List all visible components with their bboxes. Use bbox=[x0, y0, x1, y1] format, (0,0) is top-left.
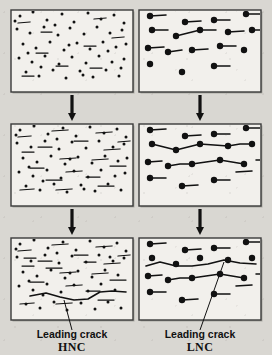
nucleation-site bbox=[28, 280, 31, 283]
nucleation-site bbox=[120, 307, 123, 310]
nucleation-site bbox=[80, 184, 83, 187]
nucleation-site bbox=[64, 163, 67, 166]
nucleation-site bbox=[121, 29, 124, 32]
nucleation-site bbox=[39, 189, 42, 192]
nucleation-site bbox=[114, 289, 117, 292]
panel-hnc-stage-2 bbox=[11, 124, 135, 208]
nucleation-site bbox=[109, 256, 112, 259]
nucleation-site bbox=[52, 69, 55, 72]
nucleation-site bbox=[249, 141, 255, 147]
panel-lnc-stage-3 bbox=[139, 238, 264, 322]
nucleation-site bbox=[83, 188, 86, 191]
nucleation-site bbox=[115, 46, 118, 49]
nucleation-site bbox=[120, 189, 123, 192]
nucleation-site bbox=[22, 43, 25, 46]
nucleation-site bbox=[98, 55, 101, 58]
nucleation-site bbox=[32, 175, 35, 178]
nucleation-site bbox=[112, 260, 115, 263]
nucleation-site bbox=[123, 22, 126, 25]
nucleation-site bbox=[43, 26, 46, 29]
panel-hnc-stage-1 bbox=[11, 10, 135, 94]
nucleation-site bbox=[96, 26, 99, 29]
nucleation-site bbox=[189, 161, 195, 167]
nucleation-site bbox=[66, 191, 69, 194]
nucleation-site bbox=[211, 17, 217, 23]
nucleation-site bbox=[63, 49, 66, 52]
nucleation-site bbox=[107, 50, 110, 53]
nucleation-site bbox=[116, 242, 119, 245]
nucleation-site bbox=[241, 275, 247, 281]
nucleation-site bbox=[53, 301, 56, 304]
nucleation-site bbox=[89, 48, 92, 51]
nucleation-site bbox=[179, 297, 185, 303]
nucleation-site bbox=[94, 308, 97, 311]
nucleation-site bbox=[165, 49, 171, 55]
lnc-code-label: LNC bbox=[187, 340, 214, 354]
nucleation-site bbox=[165, 163, 171, 169]
nucleation-site bbox=[38, 75, 41, 78]
crack-evolution-figure: Leading crack HNC Leading crack LNC bbox=[0, 0, 272, 355]
nucleation-site bbox=[83, 33, 86, 36]
nucleation-site bbox=[125, 250, 128, 253]
nucleation-site bbox=[25, 71, 28, 74]
nucleation-site bbox=[57, 34, 60, 37]
nucleation-site bbox=[56, 138, 59, 141]
nucleation-site bbox=[120, 67, 123, 70]
nucleation-site bbox=[149, 255, 155, 261]
nucleation-site bbox=[197, 141, 203, 147]
nucleation-site bbox=[100, 169, 103, 172]
nucleation-site bbox=[75, 249, 78, 252]
nucleation-site bbox=[103, 132, 106, 135]
nucleation-site bbox=[149, 141, 155, 147]
nucleation-site bbox=[125, 136, 128, 139]
nucleation-site bbox=[82, 74, 85, 77]
panel-lnc-stage-2 bbox=[139, 124, 264, 208]
nucleation-site bbox=[75, 135, 78, 138]
nucleation-site bbox=[98, 140, 101, 143]
nucleation-site bbox=[18, 285, 21, 288]
nucleation-site bbox=[69, 158, 72, 161]
nucleation-site bbox=[91, 162, 94, 165]
nucleation-site bbox=[126, 157, 129, 160]
panel-lnc-stage-1 bbox=[139, 10, 263, 94]
nucleation-site bbox=[44, 55, 47, 58]
nucleation-site bbox=[73, 284, 76, 287]
nucleation-site bbox=[19, 15, 22, 18]
nucleation-site bbox=[79, 70, 82, 73]
nucleation-site bbox=[30, 146, 33, 149]
nucleation-site bbox=[15, 248, 18, 251]
nucleation-site bbox=[179, 183, 185, 189]
nucleation-site bbox=[165, 277, 171, 283]
nucleation-site bbox=[217, 157, 223, 163]
nucleation-site bbox=[69, 272, 72, 275]
nucleation-site bbox=[104, 269, 107, 272]
nucleation-site bbox=[46, 19, 49, 22]
nucleation-site bbox=[68, 44, 71, 47]
nucleation-site bbox=[111, 61, 114, 64]
nucleation-site bbox=[25, 185, 28, 188]
nucleation-site bbox=[145, 159, 151, 165]
nucleation-site bbox=[87, 176, 90, 179]
nucleation-site bbox=[50, 155, 53, 158]
nucleation-site bbox=[100, 18, 103, 21]
nucleation-site bbox=[54, 24, 57, 27]
nucleation-site bbox=[62, 127, 65, 130]
nucleation-site bbox=[22, 271, 25, 274]
nucleation-site bbox=[117, 274, 120, 277]
nucleation-site bbox=[60, 291, 63, 294]
nucleation-site bbox=[44, 140, 47, 143]
nucleation-site bbox=[100, 283, 103, 286]
nucleation-site bbox=[46, 283, 49, 286]
nucleation-site bbox=[85, 147, 88, 150]
nucleation-site bbox=[249, 255, 255, 261]
nucleation-site bbox=[35, 47, 38, 50]
lnc-caption-label: Leading crack bbox=[165, 328, 236, 340]
nucleation-site bbox=[243, 11, 249, 17]
nucleation-site bbox=[241, 161, 247, 167]
microcrack bbox=[236, 171, 252, 172]
nucleation-site bbox=[147, 175, 153, 181]
nucleation-site bbox=[124, 172, 127, 175]
nucleation-site bbox=[71, 255, 74, 258]
nucleation-site bbox=[77, 156, 80, 159]
nucleation-site bbox=[197, 27, 203, 33]
